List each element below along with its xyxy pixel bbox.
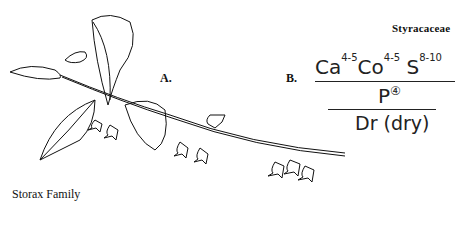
- corolla-symbol: Co: [358, 55, 384, 79]
- floral-formula-pistil: P④: [378, 84, 401, 108]
- calyx-symbol: Ca: [315, 55, 341, 79]
- corolla-count: 4-5: [384, 52, 400, 63]
- pistil-count: ④: [390, 84, 401, 98]
- fruit-type: Dr (dry): [355, 112, 429, 134]
- stamens-count: 8-10: [419, 52, 442, 63]
- calyx-count: 4-5: [341, 52, 357, 63]
- label-b: B.: [286, 71, 297, 86]
- formula-divider-2: [328, 109, 436, 110]
- family-name: Styracaceae: [392, 22, 450, 34]
- floral-formula-numerator: Ca4-5Co4-5 S8-10: [315, 55, 442, 79]
- formula-divider-1: [315, 81, 455, 82]
- label-a: A.: [160, 71, 172, 86]
- pistil-symbol: P: [378, 84, 390, 108]
- stamens-symbol: S: [406, 55, 419, 79]
- common-name: Storax Family: [12, 187, 80, 202]
